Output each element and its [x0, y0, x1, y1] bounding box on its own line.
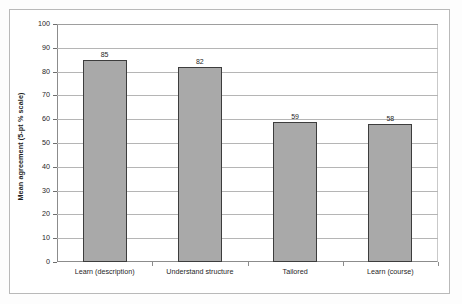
y-axis-tick-mark [53, 95, 57, 96]
bar-value-label: 59 [291, 113, 299, 120]
gridline [57, 24, 438, 25]
x-axis-tick-mark [343, 262, 344, 266]
y-axis-tick-label: 20 [42, 211, 50, 218]
x-axis-label: Learn (description) [75, 268, 135, 275]
x-axis-tick-mark [248, 262, 249, 266]
x-axis-tick-mark [438, 262, 439, 266]
bar[interactable]: 82 [178, 67, 222, 262]
x-axis-label: Learn (course) [367, 268, 414, 275]
bar-value-label: 58 [386, 115, 394, 122]
y-axis-tick-mark [53, 191, 57, 192]
bar[interactable]: 59 [273, 122, 317, 262]
y-axis-tick-mark [53, 214, 57, 215]
y-axis-tick-label: 60 [42, 116, 50, 123]
y-axis-tick-mark [53, 119, 57, 120]
y-axis-tick-label: 50 [42, 139, 50, 146]
y-axis-tick-label: 40 [42, 163, 50, 170]
y-axis-tick-label: 30 [42, 187, 50, 194]
x-axis-labels: Learn (description)Understand structureT… [57, 268, 438, 282]
y-axis-tick-mark [53, 48, 57, 49]
y-axis-tick-mark [53, 24, 57, 25]
y-axis-tick-label: 80 [42, 68, 50, 75]
y-axis-tick-label: 0 [46, 258, 50, 265]
y-axis-tick-mark [53, 72, 57, 73]
y-axis-tick-label: 100 [38, 20, 50, 27]
bar[interactable]: 85 [83, 60, 127, 262]
x-axis-tick-mark [152, 262, 153, 266]
x-axis-label: Tailored [283, 268, 308, 275]
bar-value-label: 85 [101, 51, 109, 58]
gridline [57, 48, 438, 49]
y-axis-tick-mark [53, 262, 57, 263]
y-axis-title: Mean agreement (5-pt % scale) [14, 24, 28, 269]
y-axis-tick-mark [53, 167, 57, 168]
y-axis-tick-label: 90 [42, 44, 50, 51]
y-axis-tick-label: 70 [42, 92, 50, 99]
y-axis-tick-label: 10 [42, 235, 50, 242]
x-axis-label: Understand structure [166, 268, 233, 275]
plot-wrap: 0102030405060708090100 85825958 [57, 24, 438, 262]
bar-value-label: 82 [196, 58, 204, 65]
figure-root: Mean agreement (5-pt % scale) 0102030405… [0, 0, 462, 304]
y-axis-tick-mark [53, 143, 57, 144]
bar[interactable]: 58 [368, 124, 412, 262]
y-axis-title-text: Mean agreement (5-pt % scale) [17, 93, 26, 201]
y-axis-tick-mark [53, 238, 57, 239]
